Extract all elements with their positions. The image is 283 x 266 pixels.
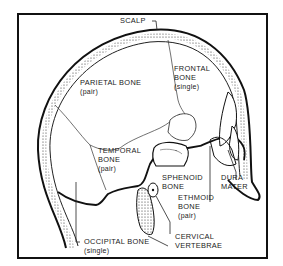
- label-frontal-line1: FRONTAL: [174, 64, 210, 73]
- frontal-sinus-structures: [210, 92, 239, 166]
- label-frontal-note: (single): [174, 82, 210, 91]
- label-temporal-note: (pair): [98, 164, 141, 173]
- skull-illustration: [0, 0, 283, 266]
- label-cervical-line2: VERTEBRAE: [175, 241, 222, 250]
- label-dura-line2: MATER: [221, 182, 248, 191]
- label-occipital-name: OCCIPITAL BONE: [84, 237, 149, 246]
- label-temporal-bone: TEMPORAL BONE (pair): [98, 146, 141, 173]
- label-frontal-bone: FRONTAL BONE (single): [174, 64, 210, 91]
- label-sphenoid-line2: BONE: [162, 182, 203, 191]
- label-ethmoid-line1: ETHMOID: [178, 193, 214, 202]
- label-parietal-bone: PARIETAL BONE (pair): [80, 78, 141, 96]
- label-cervical-vertebrae: CERVICAL VERTEBRAE: [175, 232, 222, 250]
- label-scalp: SCALP: [120, 16, 146, 25]
- label-occipital-bone: OCCIPITAL BONE (single): [84, 237, 149, 255]
- label-cervical-line1: CERVICAL: [175, 232, 222, 241]
- label-ethmoid-bone: ETHMOID BONE (pair): [178, 193, 214, 220]
- label-frontal-line2: BONE: [174, 73, 210, 82]
- label-sphenoid-line1: SPHENOID: [162, 173, 203, 182]
- label-ethmoid-line2: BONE: [178, 202, 214, 211]
- label-parietal-note: (pair): [80, 87, 141, 96]
- label-dura-mater: DURA MATER: [221, 173, 248, 191]
- label-sphenoid-bone: SPHENOID BONE: [162, 173, 203, 191]
- label-temporal-line1: TEMPORAL: [98, 146, 141, 155]
- label-dura-line1: DURA: [221, 173, 248, 182]
- label-parietal-name: PARIETAL BONE: [80, 78, 141, 87]
- label-occipital-note: (single): [84, 246, 149, 255]
- label-ethmoid-note: (pair): [178, 211, 214, 220]
- sphenoid-bone-shape: [153, 114, 196, 166]
- cervical-vertebrae-shape: [137, 183, 158, 235]
- label-temporal-line2: BONE: [98, 155, 141, 164]
